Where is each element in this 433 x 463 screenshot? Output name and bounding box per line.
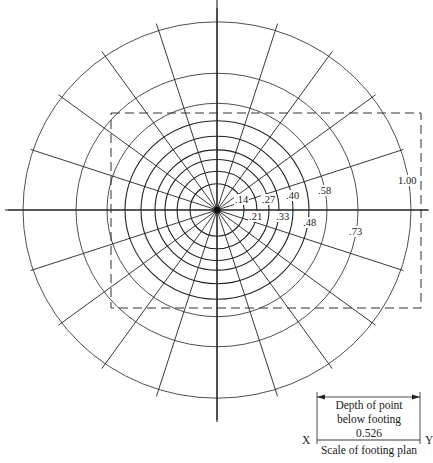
- center-point: [214, 207, 221, 214]
- radial-line: [156, 24, 217, 210]
- influence-value-label: .14: [234, 194, 249, 205]
- radial-line: [31, 210, 217, 271]
- radial-line: [217, 210, 278, 396]
- point-y-label: Y: [425, 434, 433, 447]
- scale-caption: Scale of footing plan: [316, 444, 422, 457]
- depth-label-line1: Depth of point: [326, 399, 412, 412]
- point-x-label: X: [302, 434, 310, 447]
- radial-line: [58, 95, 217, 210]
- radial-line: [217, 24, 278, 210]
- influence-value-label: .40: [285, 190, 300, 201]
- influence-value-label: .73: [348, 226, 363, 237]
- influence-value-label: .27: [261, 194, 276, 205]
- radial-line: [156, 210, 217, 396]
- radial-line: [31, 149, 217, 210]
- influence-value-label: .21: [248, 211, 263, 222]
- influence-value-label: .33: [275, 211, 290, 222]
- influence-value-label: .58: [317, 185, 332, 196]
- influence-value-label: .48: [302, 217, 317, 228]
- scale-legend: Depth of point below footing 0.526 X Y S…: [312, 390, 432, 460]
- influence-value-label: 1.00: [397, 175, 417, 186]
- depth-label-line2: below footing: [326, 413, 412, 426]
- scale-value: 0.526: [326, 427, 412, 440]
